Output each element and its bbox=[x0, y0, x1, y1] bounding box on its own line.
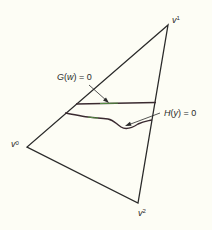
simplex-diagram: v1 v0 v2 G(w) = 0 H(y) = 0 bbox=[0, 0, 212, 230]
simplex-triangle bbox=[27, 25, 168, 203]
curve-label-g: G(w) = 0 bbox=[57, 72, 92, 82]
arrow-h-head bbox=[125, 122, 132, 126]
vertex-label-v1: v1 bbox=[172, 15, 181, 25]
curve-label-h: H(y) = 0 bbox=[164, 108, 196, 118]
vertex-label-v2: v2 bbox=[138, 208, 147, 218]
arrow-g-shaft bbox=[89, 85, 107, 101]
vertex-label-v0: v0 bbox=[11, 139, 20, 149]
arrow-h-shaft bbox=[128, 113, 160, 125]
